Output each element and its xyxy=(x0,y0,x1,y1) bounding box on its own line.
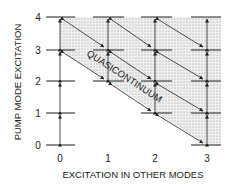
y-axis-label: PUMP MODE EXCITATION xyxy=(12,24,23,141)
svg-text:3: 3 xyxy=(35,45,41,56)
x-tick-labels: 0 1 2 3 xyxy=(57,153,210,164)
svg-text:2: 2 xyxy=(152,153,158,164)
x-axis-label: EXCITATION IN OTHER MODES xyxy=(62,169,203,180)
svg-text:4: 4 xyxy=(35,12,41,23)
diagram-canvas: QUASICONTINUUM 0 1 2 3 4 0 1 2 3 EXCITAT… xyxy=(0,0,231,184)
svg-text:3: 3 xyxy=(204,153,210,164)
svg-text:1: 1 xyxy=(35,108,41,119)
svg-text:2: 2 xyxy=(35,76,41,87)
svg-text:1: 1 xyxy=(105,153,111,164)
energy-level-diagram: QUASICONTINUUM 0 1 2 3 4 0 1 2 3 EXCITAT… xyxy=(0,0,231,184)
svg-text:0: 0 xyxy=(35,140,41,151)
svg-text:0: 0 xyxy=(57,153,63,164)
y-tick-labels: 0 1 2 3 4 xyxy=(35,12,41,151)
